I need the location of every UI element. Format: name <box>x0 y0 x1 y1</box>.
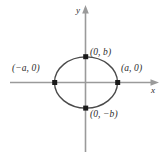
ellipse-figure: y x (0, b) (a, 0) (0, −b) (−a, 0) <box>0 0 167 159</box>
figure-canvas <box>0 0 167 159</box>
vertex-point-left <box>52 80 57 85</box>
vertex-label-top: (0, b) <box>90 48 111 58</box>
y-axis-arrow-icon <box>82 5 89 14</box>
vertex-point-right <box>115 80 120 85</box>
vertex-point-bottom <box>83 106 88 111</box>
vertex-point-top <box>83 54 88 59</box>
x-axis-label: x <box>151 86 155 95</box>
vertex-label-bottom: (0, −b) <box>90 110 118 120</box>
vertex-label-left: (−a, 0) <box>12 64 40 74</box>
y-axis-label: y <box>76 6 80 15</box>
vertex-label-right: (a, 0) <box>121 64 142 74</box>
